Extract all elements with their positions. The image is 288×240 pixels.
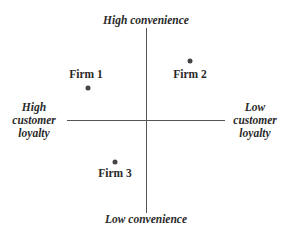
axis-label-right-line: loyalty (233, 127, 276, 140)
axis-label-left-line: customer (12, 114, 55, 127)
axis-label-bottom: Low convenience (105, 213, 187, 226)
axis-label-top: High convenience (103, 14, 189, 27)
axis-label-left-line: High (12, 101, 55, 114)
axis-label-right-line: customer (233, 114, 276, 127)
axis-label-left: High customer loyalty (12, 101, 55, 140)
axis-label-right: Low customer loyalty (233, 101, 276, 140)
firm-3-label: Firm 3 (98, 167, 132, 179)
axis-label-left-line: loyalty (12, 127, 55, 140)
firm-3-marker (113, 160, 118, 165)
firm-1-marker (86, 86, 91, 91)
horizontal-axis (67, 120, 225, 121)
firm-2-marker (188, 59, 193, 64)
firm-1-label: Firm 1 (69, 68, 103, 80)
firm-2-label: Firm 2 (173, 68, 207, 80)
axis-label-right-line: Low (233, 101, 276, 114)
